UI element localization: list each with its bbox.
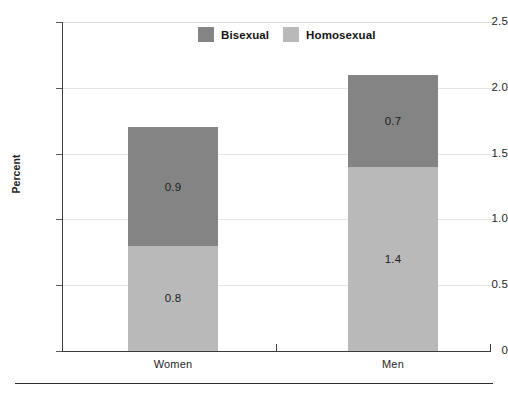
legend-item-homosexual[interactable]: Homosexual	[283, 27, 375, 42]
bar-segment-bisexual-men[interactable]: 0.7	[348, 75, 438, 167]
x-axis-label-women: Women	[103, 358, 243, 370]
bar-value-label: 1.4	[385, 253, 402, 265]
chart-figure: 2.52.01.51.00.50 Percent 0.80.91.40.7 Wo…	[0, 0, 508, 397]
bar-segment-bisexual-women[interactable]: 0.9	[128, 127, 218, 245]
bar-segment-homosexual-women[interactable]: 0.8	[128, 246, 218, 351]
chart-legend: Bisexual Homosexual	[198, 27, 376, 42]
y-axis-title: Percent	[10, 144, 22, 204]
x-axis-end-tick	[490, 344, 491, 352]
bar-group-men[interactable]: 1.40.7	[348, 22, 438, 351]
legend-swatch-homosexual	[283, 27, 299, 42]
bar-value-label: 0.9	[165, 181, 182, 193]
bar-group-women[interactable]: 0.80.9	[128, 22, 218, 351]
legend-item-bisexual[interactable]: Bisexual	[198, 27, 269, 42]
legend-label-bisexual: Bisexual	[221, 29, 269, 41]
bottom-rule	[15, 383, 493, 384]
legend-label-homosexual: Homosexual	[306, 29, 375, 41]
bar-segment-homosexual-men[interactable]: 1.4	[348, 167, 438, 351]
bar-value-label: 0.7	[385, 115, 402, 127]
bar-value-label: 0.8	[165, 292, 182, 304]
plot-area: 0.80.91.40.7	[62, 22, 490, 351]
x-axis-label-men: Men	[323, 358, 463, 370]
legend-swatch-bisexual	[198, 27, 214, 42]
